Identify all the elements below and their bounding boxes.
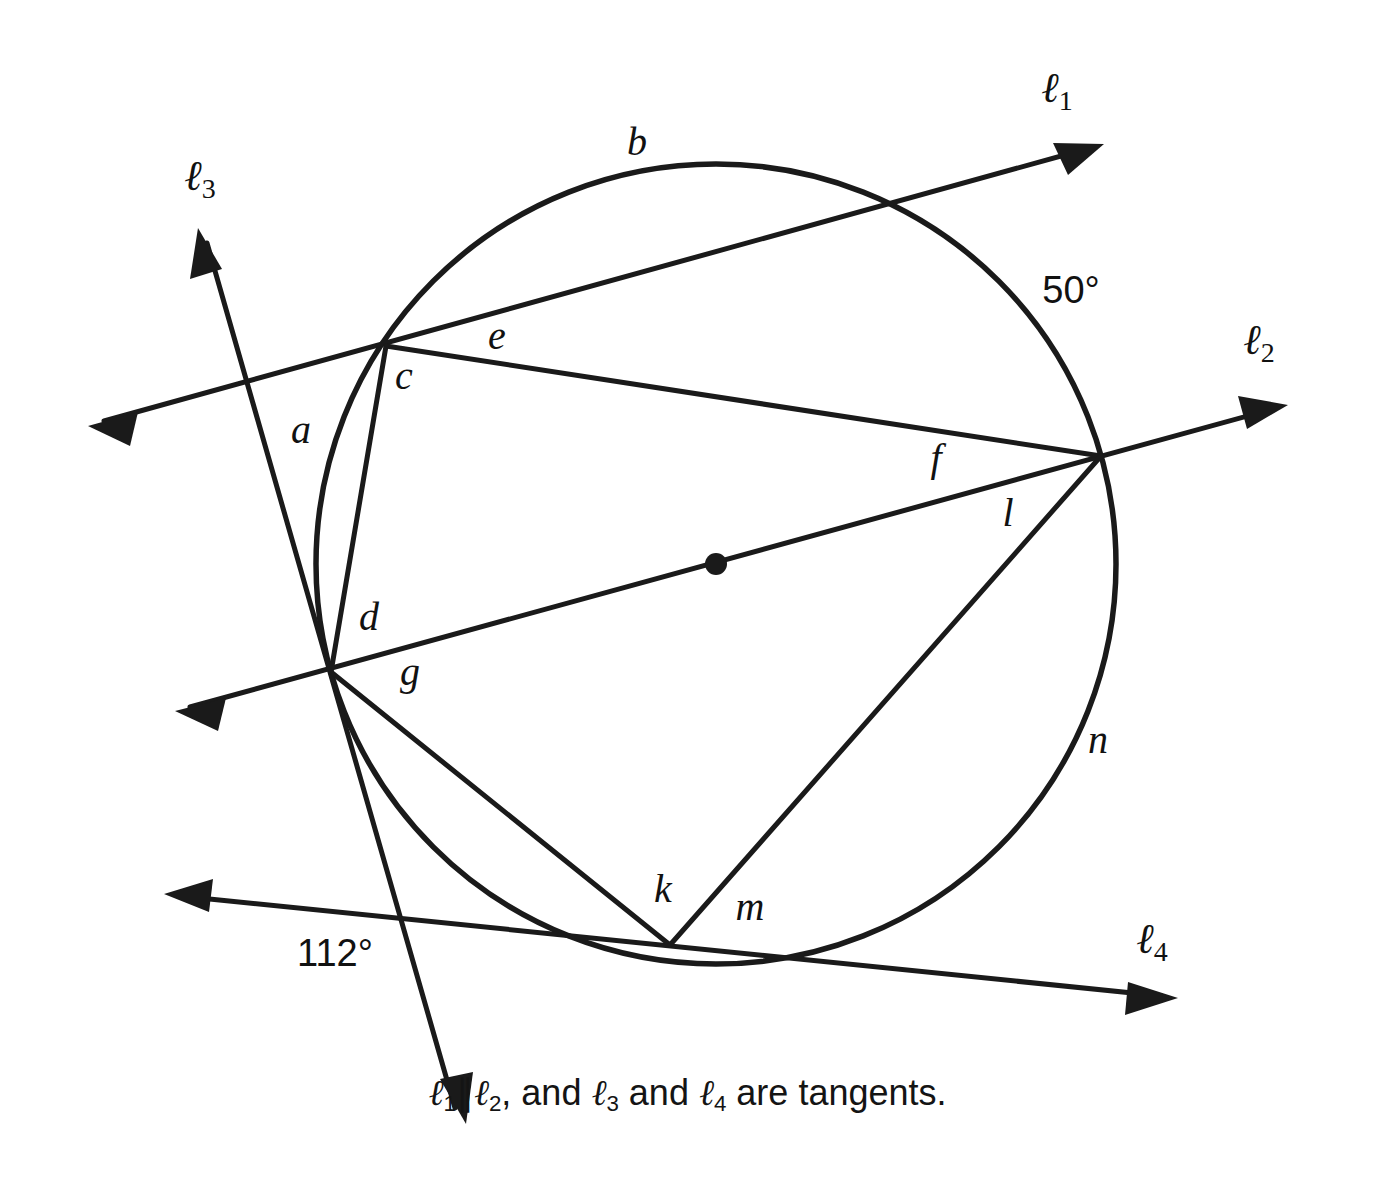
line-label-l1-base: ℓ [1041, 65, 1059, 111]
line-label-l3-base: ℓ [184, 153, 202, 199]
caption-suffix: are tangents. [726, 1072, 946, 1113]
caption-l1: ℓ [429, 1073, 444, 1113]
arc-label-d: d [359, 594, 380, 639]
line-label-l4: ℓ4 [1136, 916, 1168, 968]
caption-l4-sub: 4 [714, 1091, 726, 1116]
caption-l1-sub: 1 [444, 1091, 456, 1116]
arc-label-b: b [627, 119, 647, 164]
line-l4-left-arrowhead [164, 879, 213, 912]
line-label-l4-sub: 4 [1154, 936, 1168, 967]
caption-conjunction: and [619, 1072, 699, 1113]
arc-label-k: k [654, 866, 673, 911]
angle-label-50: 50° [1042, 269, 1099, 311]
line-label-l3-sub: 3 [202, 173, 216, 204]
line-label-l3: ℓ3 [184, 153, 216, 205]
caption-mid-text: , and [501, 1072, 591, 1113]
line-l4-right-arrowhead [1125, 982, 1178, 1015]
line-label-l1: ℓ1 [1041, 65, 1073, 117]
caption-l3: ℓ [591, 1073, 606, 1113]
figure-caption: ℓ1∥ℓ2, and ℓ3 and ℓ4 are tangents. [0, 1072, 1375, 1117]
line-l2-right-arrowhead [1238, 396, 1288, 429]
arc-label-m: m [736, 884, 765, 929]
line-label-l2-sub: 2 [1261, 337, 1275, 368]
line-label-l4-base: ℓ [1136, 916, 1154, 962]
caption-l3-sub: 3 [606, 1091, 618, 1116]
geometry-figure: a b c d e f g k l m n 50° 112° ℓ1 ℓ2 ℓ3 … [0, 0, 1375, 1192]
caption-l4: ℓ [699, 1073, 714, 1113]
caption-l2: ℓ [474, 1073, 489, 1113]
circle-center-dot [705, 553, 727, 575]
arc-label-f: f [930, 435, 946, 480]
line-label-l2: ℓ2 [1243, 317, 1275, 369]
line-l1-right-arrowhead [1053, 143, 1104, 175]
arc-label-l: l [1002, 490, 1013, 535]
caption-l2-sub: 2 [489, 1091, 501, 1116]
chord-bottomtangent-to-right [670, 456, 1101, 945]
angle-label-112: 112° [297, 932, 373, 974]
line-label-l1-sub: 1 [1059, 85, 1073, 116]
caption-parallel-symbol: ∥ [456, 1072, 474, 1113]
arc-label-g: g [400, 649, 420, 694]
chord-topleft-to-right [386, 346, 1101, 456]
line-label-l2-base: ℓ [1243, 317, 1261, 363]
arc-label-a: a [291, 407, 311, 452]
arc-label-e: e [488, 313, 506, 358]
arc-label-c: c [395, 353, 413, 398]
arc-label-n: n [1088, 717, 1108, 762]
